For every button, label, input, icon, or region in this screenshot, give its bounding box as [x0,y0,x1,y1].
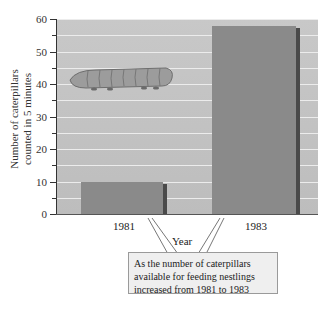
callout-line-1: As the number of caterpillars [134,257,272,270]
callout-line-2: available for feeding nestlings [134,270,272,283]
callout-line-3: increased from 1981 to 1983 [134,283,272,296]
annotation-callout: As the number of caterpillars available … [128,252,278,294]
